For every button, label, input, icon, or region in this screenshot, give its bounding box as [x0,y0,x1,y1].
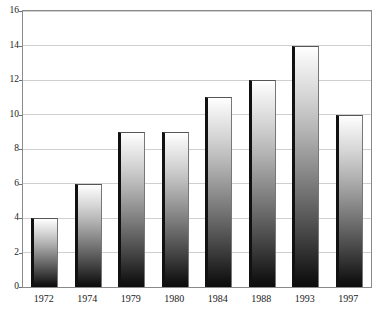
x-tick-label-1984: 1984 [196,291,240,307]
y-tick-label-4: 4 [3,213,19,223]
bar-1993 [292,46,319,288]
bar-1988 [249,80,276,287]
x-tick-label-1993: 1993 [283,291,327,307]
plot-frame [22,10,372,288]
bar-1979 [118,132,145,287]
x-tick-label-1974: 1974 [66,291,110,307]
bar-chart-screenshot: 0246810121416 19721974197919801984198819… [0,0,381,314]
x-tick-label-1980: 1980 [153,291,197,307]
x-axis-labels: 19721974197919801984198819931997 [22,291,372,309]
y-tick-label-14: 14 [3,41,19,51]
y-tick-label-12: 12 [3,75,19,85]
plot-area [23,11,371,287]
y-tick-label-8: 8 [3,144,19,154]
bar-1984 [205,97,232,287]
y-tick-label-0: 0 [3,282,19,292]
x-tick-label-1988: 1988 [240,291,284,307]
bar-1980 [162,132,189,287]
y-tick-label-2: 2 [3,248,19,258]
y-tick-label-16: 16 [3,6,19,16]
x-tick-label-1979: 1979 [109,291,153,307]
bar-1974 [75,184,102,288]
chart-title-cropped [0,0,381,7]
y-axis-labels: 0246810121416 [0,10,19,288]
bar-1997 [336,115,363,288]
y-tick-label-10: 10 [3,110,19,120]
x-tick-label-1972: 1972 [22,291,66,307]
gridline-16 [23,11,371,12]
y-tick-label-6: 6 [3,179,19,189]
x-tick-label-1997: 1997 [327,291,371,307]
bar-1972 [31,218,58,287]
